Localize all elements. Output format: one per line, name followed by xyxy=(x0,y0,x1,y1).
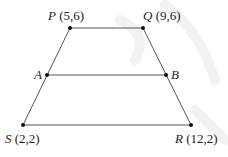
label-R: R (12,2) xyxy=(174,131,218,146)
point-R xyxy=(189,123,193,127)
points xyxy=(21,26,193,127)
point-Q xyxy=(141,26,145,30)
point-S xyxy=(21,123,25,127)
label-A: A xyxy=(33,67,42,82)
label-S: S (2,2) xyxy=(5,131,40,146)
trapezoid-diagram: P (5,6) Q (9,6) A B S (2,2) R (12,2) xyxy=(0,0,228,157)
point-B xyxy=(164,73,168,77)
point-P xyxy=(68,26,72,30)
label-P: P (5,6) xyxy=(47,8,84,23)
label-B: B xyxy=(171,67,179,82)
point-A xyxy=(45,73,49,77)
label-Q: Q (9,6) xyxy=(143,8,181,23)
